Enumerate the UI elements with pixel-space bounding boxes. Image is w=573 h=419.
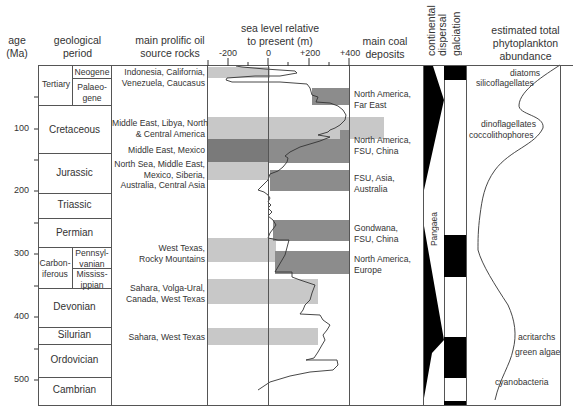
- oil-label-3: Middle East, Mexico: [112, 145, 205, 156]
- phyto-coccolithophores: coccolithophores: [469, 130, 534, 141]
- phyto-cyanobacteria: cyanobacteria: [495, 377, 549, 388]
- coal-label-1-line1: North America,: [354, 89, 411, 100]
- coal-label-3-line2: Australia: [354, 184, 395, 195]
- phyto-acritarchs: acritarchs: [518, 332, 555, 343]
- coal-label-3: FSU, Asia, Australia: [354, 173, 395, 194]
- oil-label-4: North Sea, Middle East, Mexico, Siberia,…: [112, 159, 205, 191]
- coal-label-1: North America, Far East: [354, 89, 411, 110]
- period-pennsylvanian-text: Pennsyl- vanian: [73, 248, 111, 269]
- coal-label-3-line1: FSU, Asia,: [354, 173, 395, 184]
- oil-label-2-line2: & Central America: [112, 129, 205, 140]
- oil-label-2: Middle East, Libya, North & Central Amer…: [112, 118, 205, 139]
- period-cretaceous: Cretaceous: [38, 125, 111, 136]
- period-palaeogene-text: Palaeo- gene: [73, 82, 111, 103]
- coal-label-4-line2: FSU, China: [354, 234, 398, 245]
- sea-axis-ticks: [208, 58, 349, 66]
- coal-label-4: Gondwana, FSU, China: [354, 223, 398, 244]
- oil-label-5-line1: West Texas,: [112, 243, 205, 254]
- coal-label-2: North America, FSU, China: [354, 135, 411, 156]
- coal-label-5-line2: Europe: [354, 265, 411, 276]
- coal-label-1-line2: Far East: [354, 100, 411, 111]
- period-cambrian: Cambrian: [38, 385, 111, 396]
- period-jurassic: Jurassic: [38, 168, 111, 179]
- oil-label-5: West Texas, Rocky Mountains: [112, 243, 205, 264]
- period-tertiary: Tertiary: [40, 79, 72, 90]
- oil-label-2-line1: Middle East, Libya, North: [112, 118, 205, 129]
- coal-label-5: North America, Europe: [354, 254, 411, 275]
- period-palaeogene: Palaeo- gene: [73, 82, 111, 103]
- oil-label-6-line1: Sahara, Volga-Ural,: [112, 283, 205, 294]
- overlap-band: [208, 139, 268, 162]
- coal-label-2-line2: FSU, China: [354, 146, 411, 157]
- coal-label-4-line1: Gondwana,: [354, 223, 398, 234]
- oil-label-1-line1: Indonesia, California,: [112, 67, 205, 78]
- oil-label-4-line1: North Sea, Middle East,: [112, 159, 205, 170]
- phyto-diatoms: diatoms: [510, 68, 540, 79]
- oil-label-1: Indonesia, California, Venezuela, Caucas…: [112, 67, 205, 88]
- coal-label-2-line1: North America,: [354, 135, 411, 146]
- oil-label-4-line3: Australia, Central Asia: [112, 180, 205, 191]
- oil-label-3-line1: Middle East, Mexico: [112, 145, 205, 156]
- oil-label-7: Sahara, West Texas: [112, 332, 205, 343]
- pangaea-label: Pangaea: [429, 212, 440, 246]
- phyto-silicoflagellates: silicoflagellates: [476, 78, 534, 89]
- period-carboniferous: Carbon- iferous: [38, 258, 72, 279]
- coal-label-5-line1: North America,: [354, 254, 411, 265]
- coal-bands: [268, 88, 350, 274]
- glaciation-blocks: [444, 66, 466, 405]
- oil-label-4-line2: Mexico, Siberia,: [112, 170, 205, 181]
- oil-label-1-line2: Venezuela, Caucasus: [112, 78, 205, 89]
- period-mississippian: Mississ- ippian: [73, 269, 111, 290]
- period-ordovician: Ordovician: [38, 355, 111, 366]
- oil-label-7-line1: Sahara, West Texas: [112, 332, 205, 343]
- oil-label-6: Sahara, Volga-Ural, Canada, West Texas: [112, 283, 205, 304]
- period-carboniferous-text: Carbon- iferous: [38, 258, 72, 279]
- period-triassic: Triassic: [38, 200, 111, 211]
- phyto-dinoflagellates: dinoflagellates: [481, 119, 536, 130]
- period-permian: Permian: [38, 228, 111, 239]
- period-neogene: Neogene: [73, 67, 111, 78]
- period-silurian: Silurian: [38, 330, 111, 341]
- oil-label-5-line2: Rocky Mountains: [112, 254, 205, 265]
- phyto-green-algae: green algae: [515, 347, 560, 358]
- period-devonian: Devonian: [38, 302, 111, 313]
- period-mississippian-text: Mississ- ippian: [73, 269, 111, 290]
- oil-label-6-line2: Canada, West Texas: [112, 294, 205, 305]
- period-pennsylvanian: Pennsyl- vanian: [73, 248, 111, 269]
